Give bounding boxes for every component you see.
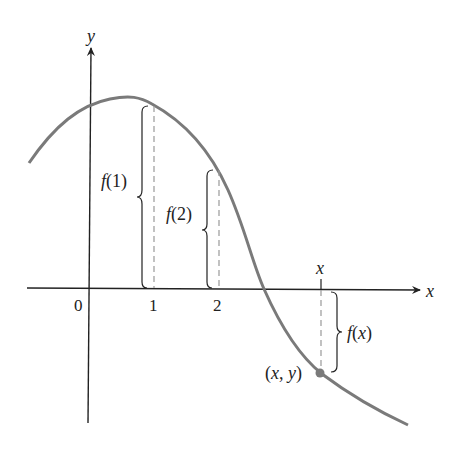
fx-label: f(x) (347, 323, 372, 344)
y-axis-label: y (85, 26, 95, 46)
tick-label-1: 1 (149, 296, 158, 315)
point-label: (x, y) (265, 363, 302, 384)
tick-label-2: 2 (213, 296, 222, 315)
f1-label: f(1) (101, 171, 127, 192)
point-xy (316, 369, 325, 378)
x-tick-label: x (315, 258, 324, 278)
brace-f1 (137, 106, 148, 288)
function-graph: y x 0 1 2 x f(1) f(2) f(x) (x, y) (0, 0, 454, 455)
f2-label: f(2) (166, 204, 192, 225)
brace-fx (331, 292, 342, 372)
x-axis-label: x (425, 281, 434, 301)
x-axis (27, 288, 420, 290)
brace-f2 (202, 170, 213, 288)
origin-label: 0 (74, 296, 83, 315)
